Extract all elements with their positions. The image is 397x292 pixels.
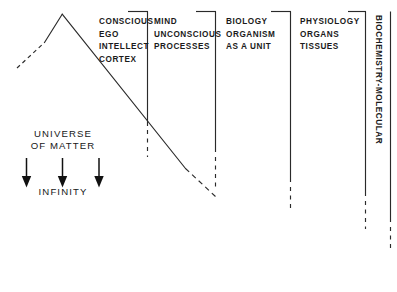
column-label-mind-unconscious: MIND UNCONSCIOUS PROCESSES (154, 16, 221, 54)
down-arrow-icon-1 (22, 158, 31, 188)
curve-rising-limb (45, 14, 63, 42)
column-label-biochemistry: BIOCHEMISTRY-MOLECULAR (374, 15, 383, 144)
diagram-canvas: CONSCIOUS EGO INTELLECT CORTEX MIND UNCO… (0, 0, 397, 292)
column-label-line: EGO (99, 29, 154, 42)
column-label-line: PROCESSES (154, 41, 221, 54)
column-label-line: PHYSIOLOGY (300, 16, 360, 29)
infinity-label: INFINITY (24, 186, 102, 198)
column-label-line: UNCONSCIOUS (154, 29, 221, 42)
column-label-line: TISSUES (300, 41, 360, 54)
down-arrow-icon-3 (94, 158, 103, 188)
column-label-line: AS A UNIT (226, 41, 275, 54)
universe-of-matter-label: UNIVERSE OF MATTER (24, 128, 102, 153)
universe-label-line: UNIVERSE (24, 128, 102, 140)
column-label-biology: BIOLOGY ORGANISM AS A UNIT (226, 16, 275, 54)
column-label-physiology: PHYSIOLOGY ORGANS TISSUES (300, 16, 360, 54)
curve-dashed-left-extension (17, 43, 45, 69)
column-label-line: BIOLOGY (226, 16, 275, 29)
column-label-line: INTELLECT (99, 41, 154, 54)
curve-dashed-right-extension (186, 169, 216, 197)
column-label-line: CORTEX (99, 54, 154, 67)
universe-label-line: OF MATTER (24, 140, 102, 152)
column-label-line: ORGANISM (226, 29, 275, 42)
column-label-mind-conscious: CONSCIOUS EGO INTELLECT CORTEX (99, 16, 154, 66)
column-label-line: CONSCIOUS (99, 16, 154, 29)
column-label-line: MIND (154, 16, 221, 29)
down-arrow-icon-2 (58, 158, 67, 188)
infinity-arrows (22, 158, 104, 188)
column-label-line: ORGANS (300, 29, 360, 42)
